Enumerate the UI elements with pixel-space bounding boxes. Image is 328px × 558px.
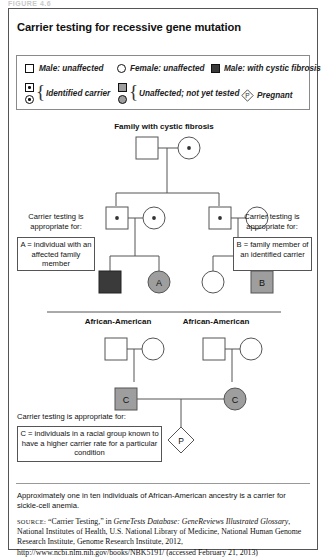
pedigree-male-affected-cf: [99, 271, 121, 293]
annotation-left-box: A = individual with an affected family m…: [17, 237, 95, 271]
annotation-bottom-box: C = individuals in a racial group known …: [17, 426, 162, 462]
source-citation: SOURCE: “Carrier Testing,” in GeneTests …: [17, 517, 309, 558]
ethnicity-label-left: African-American: [78, 317, 158, 326]
figure-label: FIGURE 4.6: [8, 0, 51, 7]
pedigree-individual-a: A: [148, 271, 170, 293]
pedigree-male-unaffected: [136, 137, 158, 159]
source-label: SOURCE:: [17, 518, 46, 525]
source-text-1: “Carrier Testing,” in: [46, 517, 114, 526]
pedigree-male-carrier-left: [106, 207, 128, 229]
pedigree-male-unaffected-ll: [105, 338, 127, 360]
annotation-left-lead-line1: Carrier testing is: [14, 212, 98, 221]
pedigree-female-unaffected-lr: [240, 338, 262, 360]
footer-divider: [16, 483, 310, 484]
label-p: P: [178, 436, 184, 446]
label-c-right: C: [232, 395, 239, 405]
source-italic-1: GeneTests Database: GeneReviews Illustra…: [114, 517, 289, 526]
annotation-bottom-lead: Carrier testing is appropriate for:: [17, 412, 167, 421]
annotation-right-lead-line1: Carrier testing is: [230, 212, 314, 221]
annotation-right-lead-line2: appropriate for:: [230, 222, 314, 231]
pedigree-female-unaffected-lower: [202, 271, 224, 293]
label-c-left: C: [123, 395, 130, 405]
pedigree-female-carrier: [178, 137, 200, 159]
pedigree-pregnancy: P: [168, 427, 194, 453]
figure-card: Carrier testing for recessive gene mutat…: [8, 8, 318, 550]
annotation-left-lead-line2: appropriate for:: [14, 222, 98, 231]
pedigree-individual-c-right: C: [224, 388, 246, 410]
label-a: A: [156, 278, 162, 288]
pedigree-female-carrier-left: [143, 207, 165, 229]
label-b: B: [259, 278, 265, 288]
pedigree-male-unaffected-lr: [203, 338, 225, 360]
pedigree-female-unaffected-ll: [142, 338, 164, 360]
pedigree-individual-b: B: [251, 271, 273, 293]
pedigree-diagram: Family with cystic fibrosis: [9, 9, 319, 551]
ethnicity-label-right: African-American: [176, 317, 256, 326]
footnote-text: Approximately one in ten individuals of …: [17, 491, 309, 511]
annotation-right-box: B = family member of an identified carri…: [233, 237, 312, 271]
pedigree-individual-c-left: C: [115, 388, 137, 410]
pedigree-male-carrier-right: [209, 207, 231, 229]
